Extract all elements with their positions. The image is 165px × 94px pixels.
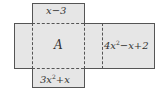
fold-line (32, 23, 84, 24)
center-face-label: A (54, 38, 63, 52)
edge (154, 23, 155, 69)
edge (32, 3, 33, 23)
edge (84, 23, 155, 24)
edge (32, 87, 85, 88)
fold-line (32, 68, 84, 69)
fold-line (84, 23, 85, 69)
edge (84, 3, 85, 23)
fold-line (102, 23, 103, 69)
edge (84, 69, 85, 88)
fold-line (32, 23, 33, 69)
edge (32, 3, 84, 4)
edge (84, 68, 155, 69)
bottom-face-label: 3x2+x (40, 73, 70, 85)
top-face-label: x−3 (46, 5, 66, 16)
right-face-label: 4x2−x+2 (104, 39, 149, 51)
edge (14, 23, 15, 69)
edge (14, 23, 32, 24)
edge (14, 68, 32, 69)
edge (32, 69, 33, 88)
